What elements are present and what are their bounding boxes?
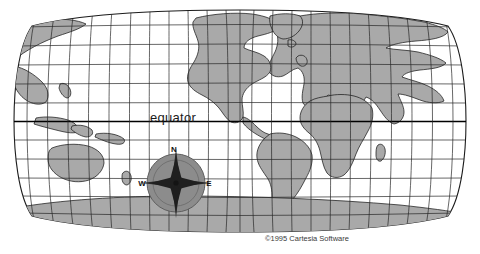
compass-hub — [173, 180, 178, 185]
equator-label: equator — [150, 110, 197, 125]
world-map-figure: equator — [0, 0, 480, 254]
compass-label-west: W — [138, 179, 146, 188]
compass-label-east: E — [206, 179, 212, 188]
compass-label-north: N — [171, 145, 177, 154]
copyright-credit: ©1995 Cartesia Software — [265, 234, 349, 243]
world-map-svg: equator — [0, 0, 480, 254]
